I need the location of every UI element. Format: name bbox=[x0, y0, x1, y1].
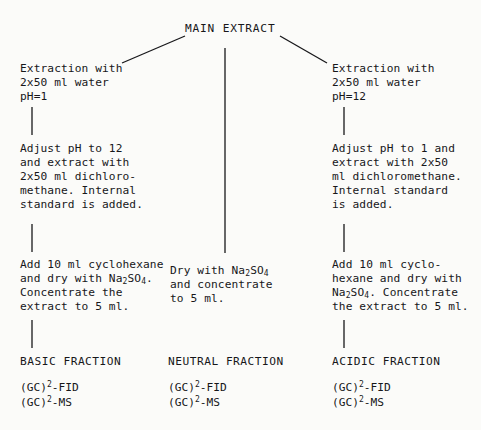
middle-step-1: Dry with Na2SO4 and concentrate to 5 ml. bbox=[170, 264, 273, 306]
right-step-1-line-2: 2x50 ml water bbox=[332, 76, 421, 89]
left-step-2-line-2: and extract with bbox=[20, 156, 129, 169]
extraction-flowchart: MAIN EXTRACT Extraction with 2x50 ml wat… bbox=[0, 0, 481, 430]
right-step-3-na: Na bbox=[332, 286, 346, 299]
middle-step-1-line-1: Dry with Na2SO4 bbox=[170, 264, 269, 277]
middle-step-dry-text: Dry with Na bbox=[170, 264, 245, 277]
right-step-3-line-3: Na2SO4. Concentrate bbox=[332, 286, 458, 299]
left-step-3-line-3: Concentrate the bbox=[20, 286, 123, 299]
main-extract-title: MAIN EXTRACT bbox=[185, 22, 275, 36]
middle-step-so: SO bbox=[250, 264, 264, 277]
middle-assay-1-gc: (GC) bbox=[168, 381, 195, 394]
right-step-2-line-4: Internal standard bbox=[332, 184, 448, 197]
left-step-1-line-1: Extraction with bbox=[20, 62, 123, 75]
left-step-2-line-4: methane. Internal bbox=[20, 184, 136, 197]
right-step-2-line-5: is added. bbox=[332, 198, 394, 211]
middle-assay-2-detector: -MS bbox=[200, 396, 220, 409]
left-assay-2-detector: -MS bbox=[52, 396, 72, 409]
left-assay-1-detector: -FID bbox=[52, 381, 79, 394]
right-step-1: Extraction with 2x50 ml water pH=12 bbox=[332, 62, 435, 104]
left-step-3: Add 10 ml cyclohexane and dry with Na2SO… bbox=[20, 258, 164, 314]
right-assay-2-detector: -MS bbox=[364, 396, 384, 409]
left-step-2-line-1: Adjust pH to 12 bbox=[20, 142, 123, 155]
right-step-2-line-2: extract with 2x50 bbox=[332, 156, 448, 169]
basic-fraction-label: BASIC FRACTION bbox=[20, 355, 121, 369]
right-step-2-line-1: Adjust pH to 1 and bbox=[332, 142, 455, 155]
left-step-2-line-5: standard is added. bbox=[20, 198, 143, 211]
right-step-3: Add 10 ml cyclo- hexane and dry with Na2… bbox=[332, 258, 469, 314]
left-step-2-line-3: 2x50 ml dichloro- bbox=[20, 170, 136, 183]
right-assay-1-gc: (GC) bbox=[332, 381, 359, 394]
left-step-3-so: SO bbox=[127, 272, 141, 285]
left-assay-2-gc: (GC) bbox=[20, 396, 47, 409]
middle-assay-2: (GC)2-MS bbox=[168, 396, 220, 409]
right-step-3-so: SO bbox=[351, 286, 365, 299]
middle-analyses: (GC)2-FID (GC)2-MS bbox=[168, 380, 227, 410]
right-step-1-line-1: Extraction with bbox=[332, 62, 435, 75]
right-analyses: (GC)2-FID (GC)2-MS bbox=[332, 380, 391, 410]
left-step-3-line-2: and dry with Na2SO4. bbox=[20, 272, 153, 285]
right-step-3-rest: . Concentrate bbox=[369, 286, 458, 299]
middle-step-sub-4: 4 bbox=[264, 269, 269, 278]
left-analyses: (GC)2-FID (GC)2-MS bbox=[20, 380, 79, 410]
middle-assay-1-detector: -FID bbox=[200, 381, 227, 394]
right-step-3-line-2: hexane and dry with bbox=[332, 272, 462, 285]
right-assay-1-detector: -FID bbox=[364, 381, 391, 394]
branch-line-left bbox=[122, 36, 185, 63]
right-assay-2-gc: (GC) bbox=[332, 396, 359, 409]
middle-step-1-line-3: to 5 ml. bbox=[170, 292, 225, 305]
branch-line-right bbox=[280, 36, 327, 63]
middle-assay-2-gc: (GC) bbox=[168, 396, 195, 409]
left-step-3-line-4: extract to 5 ml. bbox=[20, 300, 129, 313]
middle-step-1-line-2: and concentrate bbox=[170, 278, 273, 291]
left-step-1-line-3: pH=1 bbox=[20, 90, 47, 103]
right-step-1-line-3: pH=12 bbox=[332, 90, 366, 103]
middle-assay-1: (GC)2-FID bbox=[168, 381, 227, 394]
left-assay-1-gc: (GC) bbox=[20, 381, 47, 394]
left-step-2: Adjust pH to 12 and extract with 2x50 ml… bbox=[20, 142, 143, 212]
right-step-2-line-3: ml dichloromethane. bbox=[332, 170, 462, 183]
neutral-fraction-label: NEUTRAL FRACTION bbox=[168, 355, 284, 369]
left-step-3-sodium-sulfate-text: and dry with Na bbox=[20, 272, 123, 285]
left-step-1-line-2: 2x50 ml water bbox=[20, 76, 109, 89]
left-assay-1: (GC)2-FID bbox=[20, 381, 79, 394]
right-step-2: Adjust pH to 1 and extract with 2x50 ml … bbox=[332, 142, 462, 212]
left-assay-2: (GC)2-MS bbox=[20, 396, 72, 409]
right-step-3-line-4: the extract to 5 ml. bbox=[332, 300, 469, 313]
left-step-3-line-1: Add 10 ml cyclohexane bbox=[20, 258, 164, 271]
acidic-fraction-label: ACIDIC FRACTION bbox=[332, 355, 441, 369]
left-step-3-period: . bbox=[146, 272, 153, 285]
left-step-1: Extraction with 2x50 ml water pH=1 bbox=[20, 62, 123, 104]
right-step-3-line-1: Add 10 ml cyclo- bbox=[332, 258, 441, 271]
right-assay-1: (GC)2-FID bbox=[332, 381, 391, 394]
right-assay-2: (GC)2-MS bbox=[332, 396, 384, 409]
